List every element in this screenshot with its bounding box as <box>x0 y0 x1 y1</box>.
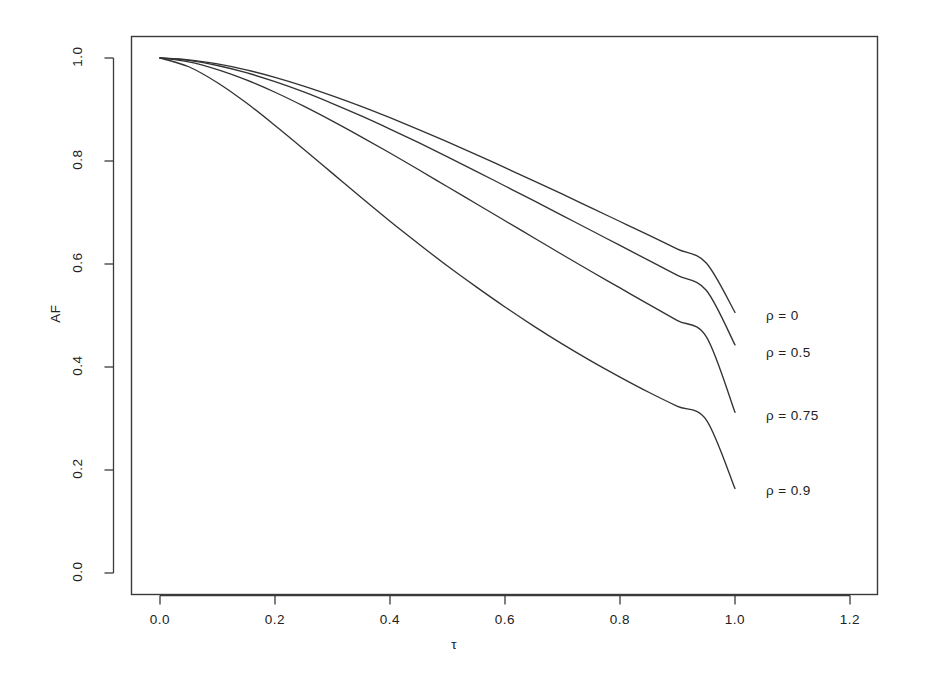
chart-figure: 0.00.20.40.60.81.01.20.00.20.40.60.81.0τ… <box>0 0 926 673</box>
x-axis-tick-label: 0.8 <box>598 612 642 627</box>
axes-layer <box>105 58 851 605</box>
y-axis-tick-label: 0.4 <box>69 343 84 389</box>
data-curves-layer <box>160 58 735 489</box>
data-series-line <box>160 58 735 345</box>
series-annotation-label: ρ = 0.9 <box>766 483 811 498</box>
plot-canvas <box>0 0 926 673</box>
y-axis-tick-label: 0.2 <box>69 446 84 492</box>
y-axis-tick-label: 0.8 <box>69 137 84 183</box>
data-series-line <box>160 58 735 312</box>
y-axis-tick-label: 0.6 <box>69 240 84 286</box>
x-axis-tick-label: 0.2 <box>253 612 297 627</box>
x-axis-tick-label: 1.0 <box>713 612 757 627</box>
y-axis-tick-label: 0.0 <box>69 549 84 595</box>
x-axis-tick-label: 0.6 <box>483 612 527 627</box>
x-axis-tick-label: 0.0 <box>138 612 182 627</box>
x-axis-tick-label: 0.4 <box>368 612 412 627</box>
series-annotation-label: ρ = 0 <box>766 308 799 323</box>
series-annotation-label: ρ = 0.5 <box>766 345 811 360</box>
x-axis-title: τ <box>0 637 926 652</box>
y-axis-title: AF <box>48 284 63 344</box>
y-axis-tick-label: 1.0 <box>69 34 84 80</box>
series-annotation-label: ρ = 0.75 <box>766 408 819 423</box>
x-axis-tick-label: 1.2 <box>828 612 872 627</box>
data-series-line <box>160 58 735 489</box>
